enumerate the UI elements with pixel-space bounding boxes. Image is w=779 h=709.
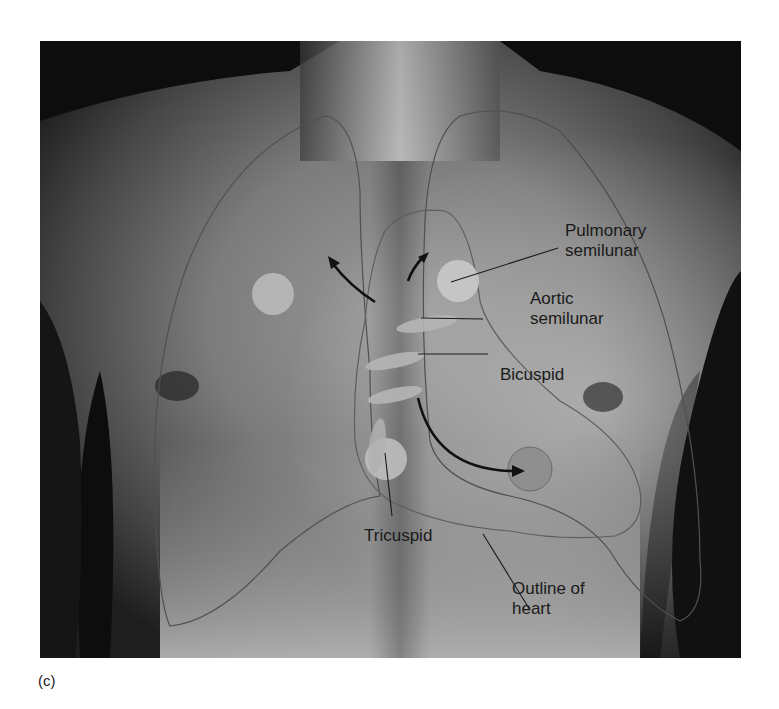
aortic-auscultation-site — [252, 273, 294, 315]
label-outline-of-heart: Outline of heart — [512, 579, 585, 619]
left-nipple — [583, 382, 623, 412]
label-tricuspid: Tricuspid — [364, 526, 432, 546]
chest-figure: Pulmonary semilunar Aortic semilunar Bic… — [40, 41, 741, 658]
label-pulmonary-semilunar: Pulmonary semilunar — [565, 221, 646, 261]
label-aortic-semilunar: Aortic semilunar — [530, 289, 604, 329]
chest-illustration — [40, 41, 741, 658]
pulmonary-auscultation-site — [437, 260, 479, 302]
label-bicuspid: Bicuspid — [500, 365, 564, 385]
panel-label: (c) — [38, 672, 56, 689]
right-nipple — [155, 371, 199, 401]
